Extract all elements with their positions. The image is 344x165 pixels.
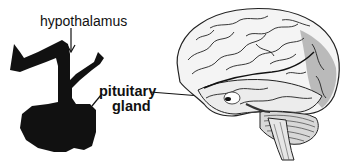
diagram-canvas: hypothalamus pituitary gland	[0, 0, 344, 165]
label-gland: gland	[112, 99, 151, 114]
label-hypothalamus: hypothalamus	[40, 14, 127, 28]
label-pituitary: pituitary	[99, 84, 156, 99]
brain-illustration	[177, 9, 339, 160]
pituitary-silhouette	[10, 40, 104, 152]
